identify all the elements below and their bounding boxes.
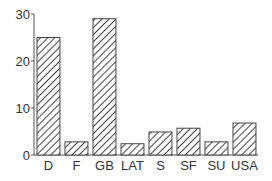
bar-f [65, 142, 88, 155]
y-tick-label: 20 [16, 54, 30, 69]
y-tick-label: 10 [16, 101, 30, 116]
bar-lat [121, 144, 144, 155]
bar-d [37, 38, 60, 156]
x-tick-label: SU [207, 158, 225, 173]
bar-su [205, 142, 228, 155]
y-tick-label: 0 [23, 148, 30, 163]
bars [37, 19, 256, 155]
bar-usa [233, 123, 256, 155]
y-axis: 0102030 [16, 7, 34, 163]
bar-s [149, 132, 172, 155]
x-tick-label: SF [180, 158, 197, 173]
x-tick-label: GB [95, 158, 114, 173]
bar-sf [177, 128, 200, 155]
x-axis: DFGBLATSSFSUUSA [34, 155, 258, 173]
bar-chart: 0102030 DFGBLATSSFSUUSA [0, 0, 272, 181]
bar-gb [93, 19, 116, 155]
x-tick-label: LAT [121, 158, 144, 173]
x-tick-label: USA [231, 158, 258, 173]
x-tick-label: F [73, 158, 81, 173]
y-tick-label: 30 [16, 7, 30, 22]
x-tick-label: S [156, 158, 165, 173]
x-tick-label: D [44, 158, 53, 173]
